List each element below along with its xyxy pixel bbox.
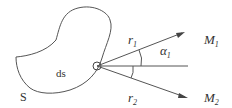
element-label: ds xyxy=(56,67,66,79)
target-m2-label: M2 xyxy=(203,90,219,107)
vector-r2-label: r2 xyxy=(128,90,137,107)
region-label: S xyxy=(20,90,27,104)
angle-label: α1 xyxy=(160,43,171,60)
target-m1-label: M1 xyxy=(203,32,219,49)
vector-r1-line xyxy=(97,33,182,66)
arrowhead-r2-icon xyxy=(178,93,188,98)
vector-r1-label: r1 xyxy=(128,32,137,49)
angle-arc-1 xyxy=(139,50,142,66)
diagram-canvas: ds S r1 α1 r2 M1 M2 xyxy=(0,0,232,108)
vector-r2-line xyxy=(97,66,185,97)
arrowhead-r1-icon xyxy=(176,32,185,38)
region-outline xyxy=(16,7,111,93)
angle-arc-2 xyxy=(131,66,133,78)
